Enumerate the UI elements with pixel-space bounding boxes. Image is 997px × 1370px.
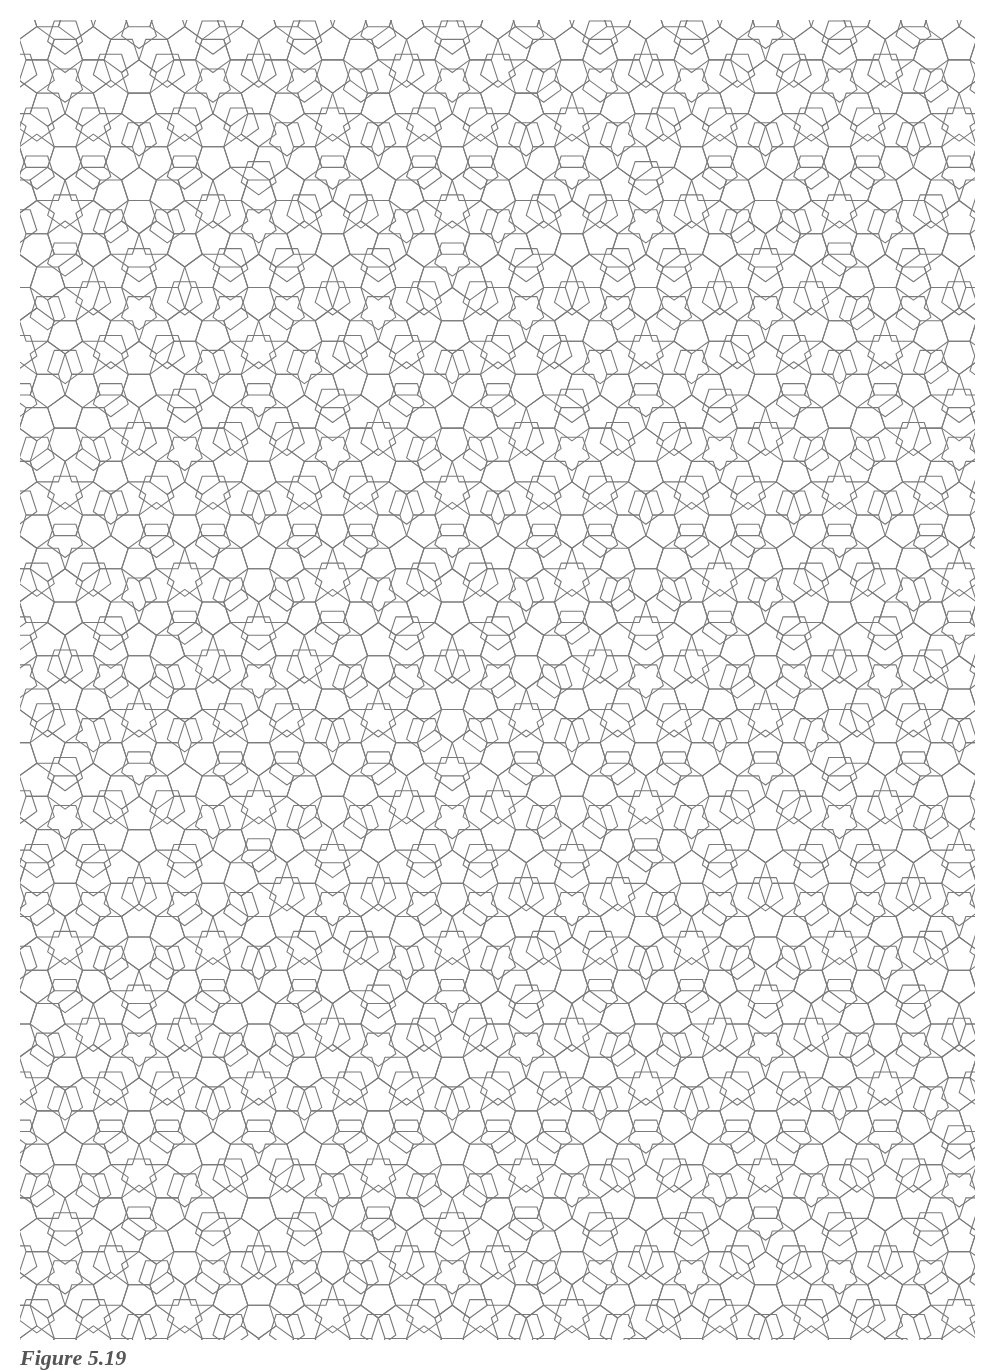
figure-caption: Figure 5.19 [20,1347,126,1369]
